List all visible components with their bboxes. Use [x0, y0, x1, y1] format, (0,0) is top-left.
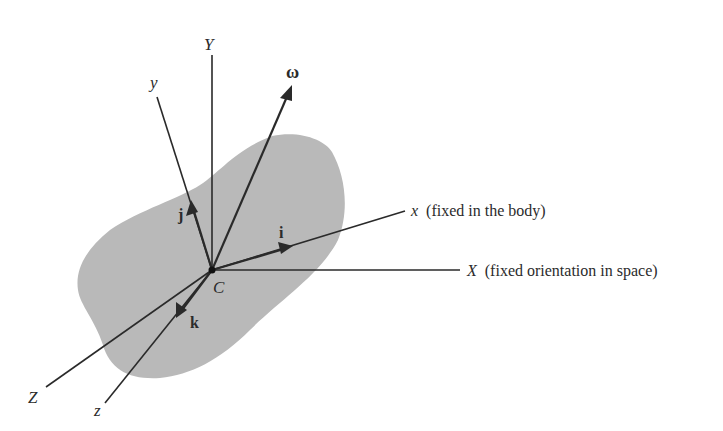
label-Z: Z	[28, 388, 38, 407]
label-C: C	[213, 278, 225, 297]
rigid-body-shape	[77, 134, 344, 378]
label-z: z	[93, 401, 101, 420]
label-j: j	[177, 206, 183, 224]
rigid-body-diagram: Y y ω j i k C x (fixed in the body) X (f…	[0, 0, 723, 431]
label-omega: ω	[286, 62, 299, 82]
label-y: y	[148, 73, 158, 92]
label-X: X	[466, 262, 478, 279]
label-i: i	[279, 224, 284, 241]
label-x-axis: x (fixed in the body)	[410, 202, 546, 220]
label-x: x	[410, 202, 418, 219]
label-X-note: (fixed orientation in space)	[485, 262, 658, 280]
label-k: k	[190, 314, 199, 331]
label-x-note: (fixed in the body)	[426, 202, 546, 220]
label-Y: Y	[204, 35, 215, 54]
omega-arrowhead-icon	[280, 85, 292, 101]
center-point-C	[209, 267, 216, 274]
label-X-axis: X (fixed orientation in space)	[466, 262, 658, 280]
